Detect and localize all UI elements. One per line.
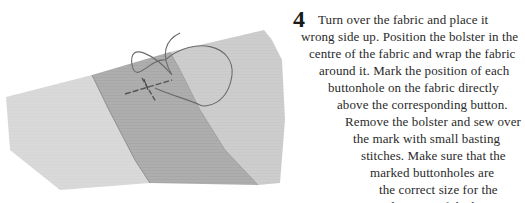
instruction-line: above the corresponding button.	[337, 97, 508, 113]
instruction-line: around it. Mark the position of each	[319, 63, 509, 79]
instruction-line: centre of the fabric and wrap the fabric	[309, 46, 515, 62]
instruction-text: 4 Turn over the fabric and place it wron…	[0, 0, 525, 203]
instruction-line: wrong side up. Position the bolster in t…	[301, 29, 518, 45]
instruction-line: the mark with small basting	[353, 131, 500, 147]
instruction-line: marked buttonholes are	[370, 165, 494, 181]
instruction-line: Turn over the fabric and place it	[318, 12, 488, 28]
step-number: 4	[293, 7, 305, 31]
instruction-line: buttonhole on the fabric directly	[328, 80, 499, 96]
instruction-line: Remove the bolster and sew over	[345, 114, 521, 130]
instruction-line: stitches. Make sure that the	[361, 148, 506, 164]
instruction-line: the correct size for the	[379, 182, 498, 198]
instruction-line: diameter of the buttons.	[388, 199, 514, 203]
